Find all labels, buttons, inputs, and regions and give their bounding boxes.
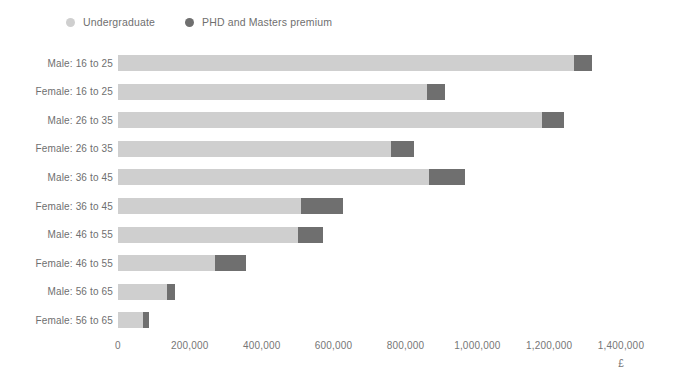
x-axis-tick-label: 200,000 [171, 340, 209, 351]
stacked-bar[interactable] [118, 169, 465, 185]
x-axis-tick-label: 400,000 [243, 340, 281, 351]
category-label: Female: 56 to 65 [0, 315, 113, 326]
bar-segment-undergraduate[interactable] [118, 84, 427, 100]
category-label: Male: 56 to 65 [0, 286, 113, 297]
stacked-bar[interactable] [118, 141, 414, 157]
legend-label: PHD and Masters premium [202, 16, 332, 28]
legend-item-phd-masters-premium[interactable]: PHD and Masters premium [185, 16, 332, 28]
chart-row: Male: 16 to 25 [0, 52, 677, 74]
x-axis-tick-label: 800,000 [387, 340, 425, 351]
bar-segment-undergraduate[interactable] [118, 55, 574, 71]
x-axis-tick-label: 1,400,000 [598, 340, 644, 351]
x-axis-tick-label: 1,000,000 [454, 340, 500, 351]
axis-unit-label: £ [618, 358, 624, 369]
category-label: Male: 26 to 35 [0, 115, 113, 126]
bar-segment-undergraduate[interactable] [118, 112, 542, 128]
chart-row: Male: 26 to 35 [0, 109, 677, 131]
stacked-bar[interactable] [118, 312, 149, 328]
stacked-bar[interactable] [118, 112, 564, 128]
bar-segment-phd-masters-premium[interactable] [167, 284, 176, 300]
chart-row: Female: 26 to 35 [0, 138, 677, 160]
bar-segment-phd-masters-premium[interactable] [427, 84, 445, 100]
bar-segment-phd-masters-premium[interactable] [429, 169, 465, 185]
category-label: Female: 46 to 55 [0, 258, 113, 269]
bar-segment-phd-masters-premium[interactable] [143, 312, 148, 328]
bar-segment-phd-masters-premium[interactable] [391, 141, 414, 157]
stacked-bar[interactable] [118, 227, 323, 243]
chart-row: Female: 46 to 55 [0, 252, 677, 274]
legend-label: Undergraduate [83, 16, 155, 28]
chart-row: Male: 46 to 55 [0, 224, 677, 246]
legend-dot-icon [185, 18, 194, 27]
bar-segment-undergraduate[interactable] [118, 312, 143, 328]
chart-row: Male: 36 to 45 [0, 166, 677, 188]
bar-segment-undergraduate[interactable] [118, 169, 429, 185]
bar-segment-undergraduate[interactable] [118, 255, 215, 271]
category-label: Female: 26 to 35 [0, 143, 113, 154]
chart-row: Female: 36 to 45 [0, 195, 677, 217]
bar-segment-undergraduate[interactable] [118, 227, 298, 243]
chart-legend: Undergraduate PHD and Masters premium [0, 16, 677, 28]
chart-row: Female: 16 to 25 [0, 81, 677, 103]
stacked-bar[interactable] [118, 284, 175, 300]
bar-segment-phd-masters-premium[interactable] [301, 198, 342, 214]
category-label: Female: 36 to 45 [0, 201, 113, 212]
chart-row: Male: 56 to 65 [0, 281, 677, 303]
bar-segment-phd-masters-premium[interactable] [542, 112, 564, 128]
bar-segment-phd-masters-premium[interactable] [298, 227, 323, 243]
bar-segment-undergraduate[interactable] [118, 141, 391, 157]
category-label: Male: 46 to 55 [0, 229, 113, 240]
bar-segment-phd-masters-premium[interactable] [215, 255, 246, 271]
bar-segment-phd-masters-premium[interactable] [574, 55, 592, 71]
bar-segment-undergraduate[interactable] [118, 198, 301, 214]
stacked-bar[interactable] [118, 84, 445, 100]
stacked-bar[interactable] [118, 55, 592, 71]
x-axis-tick-label: 0 [115, 340, 121, 351]
category-label: Male: 16 to 25 [0, 58, 113, 69]
plot-area: Male: 16 to 25Female: 16 to 25Male: 26 t… [0, 52, 677, 337]
category-label: Female: 16 to 25 [0, 86, 113, 97]
bar-segment-undergraduate[interactable] [118, 284, 167, 300]
stacked-bar[interactable] [118, 198, 343, 214]
legend-dot-icon [66, 18, 75, 27]
x-axis-tick-label: 600,000 [315, 340, 353, 351]
legend-item-undergraduate[interactable]: Undergraduate [66, 16, 155, 28]
category-label: Male: 36 to 45 [0, 172, 113, 183]
stacked-bar-chart: Undergraduate PHD and Masters premium Ma… [0, 0, 677, 390]
stacked-bar[interactable] [118, 255, 246, 271]
x-axis-tick-label: 1,200,000 [526, 340, 572, 351]
x-axis: 0200,000400,000600,000800,0001,000,0001,… [0, 340, 677, 358]
chart-row: Female: 56 to 65 [0, 309, 677, 331]
